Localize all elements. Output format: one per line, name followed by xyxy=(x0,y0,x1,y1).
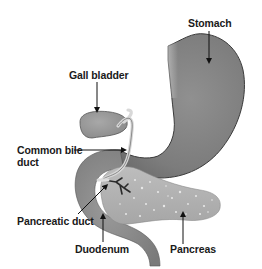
label-duodenum: Duodenum xyxy=(75,243,129,255)
label-common-bile-duct-line2: duct xyxy=(17,156,39,168)
anatomy-diagram: Stomach Gall bladder Common bile duct Pa… xyxy=(0,0,262,269)
label-common-bile-duct-line1: Common bile xyxy=(17,144,82,156)
label-pancreas: Pancreas xyxy=(170,243,216,255)
organ-illustration xyxy=(0,0,262,269)
label-stomach: Stomach xyxy=(188,17,232,29)
label-gall-bladder: Gall bladder xyxy=(69,69,128,81)
fundus-fade xyxy=(150,38,178,98)
label-pancreatic-duct: Pancreatic duct xyxy=(17,215,94,227)
